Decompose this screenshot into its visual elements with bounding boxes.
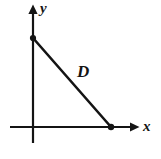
y-axis-arrowhead (28, 5, 37, 15)
x-intercept-point (108, 124, 114, 130)
geometry-figure: y x D (0, 0, 161, 159)
hypotenuse-label: D (77, 63, 89, 80)
y-intercept-point (30, 35, 36, 41)
x-axis-label: x (143, 119, 151, 134)
x-axis-arrowhead (130, 122, 140, 131)
hypotenuse-line (33, 38, 111, 127)
y-axis-label: y (40, 1, 47, 16)
